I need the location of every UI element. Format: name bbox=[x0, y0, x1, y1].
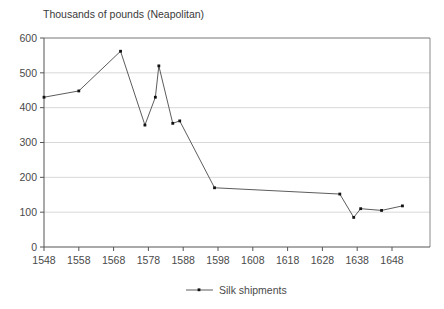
y-tick-label-400: 400 bbox=[19, 101, 37, 113]
data-point-1639 bbox=[359, 207, 362, 210]
x-tick-label-1578: 1578 bbox=[137, 254, 161, 266]
legend-marker-swatch bbox=[198, 288, 201, 291]
x-tick-label-1638: 1638 bbox=[346, 254, 370, 266]
x-tick-label-1628: 1628 bbox=[311, 254, 335, 266]
data-point-1585 bbox=[171, 122, 174, 125]
data-point-1570 bbox=[119, 50, 122, 53]
x-tick-label-1608: 1608 bbox=[241, 254, 265, 266]
x-tick-label-1548: 1548 bbox=[32, 254, 56, 266]
data-point-1651 bbox=[401, 205, 404, 208]
data-point-1597 bbox=[213, 186, 216, 189]
line-chart: Thousands of pounds (Neapolitan) 0100200… bbox=[0, 0, 444, 309]
data-point-1558 bbox=[77, 90, 80, 93]
data-point-1587 bbox=[178, 120, 181, 123]
data-point-1581 bbox=[157, 64, 160, 67]
data-point-1548 bbox=[43, 96, 46, 99]
y-tick-label-0: 0 bbox=[31, 241, 37, 253]
x-tick-label-1588: 1588 bbox=[172, 254, 196, 266]
x-tick-label-1568: 1568 bbox=[102, 254, 126, 266]
legend-label-silk-shipments: Silk shipments bbox=[219, 284, 287, 296]
y-tick-label-500: 500 bbox=[19, 67, 37, 79]
x-tick-label-1618: 1618 bbox=[276, 254, 300, 266]
chart-container: Thousands of pounds (Neapolitan) 0100200… bbox=[0, 0, 444, 309]
y-tick-label-100: 100 bbox=[19, 206, 37, 218]
data-point-1645 bbox=[380, 209, 383, 212]
y-tick-label-600: 600 bbox=[19, 32, 37, 44]
data-point-1637 bbox=[352, 216, 355, 219]
y-tick-label-300: 300 bbox=[19, 136, 37, 148]
data-point-1577 bbox=[144, 124, 147, 127]
x-tick-label-1648: 1648 bbox=[380, 254, 404, 266]
x-tick-label-1558: 1558 bbox=[67, 254, 91, 266]
x-tick-label-1598: 1598 bbox=[206, 254, 230, 266]
chart-title: Thousands of pounds (Neapolitan) bbox=[43, 8, 204, 20]
y-tick-label-200: 200 bbox=[19, 171, 37, 183]
data-point-1580 bbox=[154, 96, 157, 99]
data-point-1633 bbox=[338, 193, 341, 196]
